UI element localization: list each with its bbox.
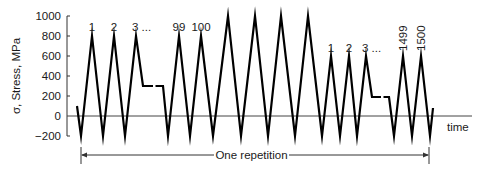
y-tick-label: 200 <box>42 90 61 102</box>
arrowhead-left-icon <box>81 153 87 158</box>
y-tick-label: 400 <box>42 70 61 82</box>
block-3-cycles <box>387 56 433 136</box>
arrowhead-right-icon <box>423 153 429 158</box>
y-tick-label: 800 <box>42 30 61 42</box>
y-tick-label: 1000 <box>35 10 61 22</box>
cycle-label: 100 <box>191 21 210 33</box>
cycle-labels-block-3: 1 2 3 ... 1499 1500 <box>328 25 427 54</box>
cycle-label: 2 <box>111 21 117 33</box>
y-tick-label: 0 <box>55 110 61 122</box>
x-axis-title: time <box>447 121 469 133</box>
cycle-label: 2 <box>346 42 352 54</box>
y-tick-label: 600 <box>42 50 61 62</box>
y-tick-labels: 1000 800 600 400 200 0 −200 <box>35 10 61 142</box>
y-axis <box>67 16 70 136</box>
cycle-label: 1 <box>328 42 334 54</box>
y-tick-label: −200 <box>35 130 61 142</box>
stress-history-diagram: σ, Stress, MPa 1000 800 600 400 200 0 −2… <box>0 0 491 175</box>
stress-history-line <box>77 16 433 136</box>
block-1-cycles <box>77 36 149 136</box>
y-axis-title: σ, Stress, MPa <box>10 37 22 114</box>
cycle-label: 1 <box>89 21 95 33</box>
cycle-labels-block-1: 1 2 3 ... 99 100 <box>89 21 211 33</box>
cycle-label-rotated: 1500 <box>415 25 427 51</box>
cycle-label: 99 <box>173 21 186 33</box>
cycle-label-rotated: 1499 <box>397 25 409 51</box>
repetition-label: One repetition <box>215 149 287 161</box>
block-1-2-cycles <box>158 16 377 136</box>
cycle-label: 3 ... <box>132 21 151 33</box>
cycle-label: 3 ... <box>362 42 381 54</box>
